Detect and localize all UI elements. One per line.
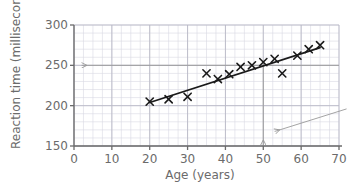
x-axis-tick-label: 0 — [58, 153, 90, 165]
data-point-marker — [237, 63, 244, 70]
x-axis-tick-label: 40 — [209, 153, 241, 165]
x-axis-tick-label: 70 — [323, 153, 355, 165]
y-axis-tick-label: 300 — [26, 19, 68, 31]
x-axis-title: Age (years) — [120, 168, 280, 182]
y-axis-title: Reaction time (milliseconds) — [9, 9, 23, 149]
x-axis-tick-label: 30 — [172, 153, 204, 165]
x-axis-tick-label: 60 — [285, 153, 317, 165]
x-axis-tick-label: 20 — [134, 153, 166, 165]
y-axis-tick-label: 200 — [26, 100, 68, 112]
chart-container: Reaction time (milliseconds) Age (years)… — [0, 0, 362, 190]
y-axis-tick-label: 150 — [26, 140, 68, 152]
x-axis-tick-label: 10 — [96, 153, 128, 165]
x-axis-tick-label: 50 — [247, 153, 279, 165]
y-axis-tick-label: 250 — [26, 59, 68, 71]
